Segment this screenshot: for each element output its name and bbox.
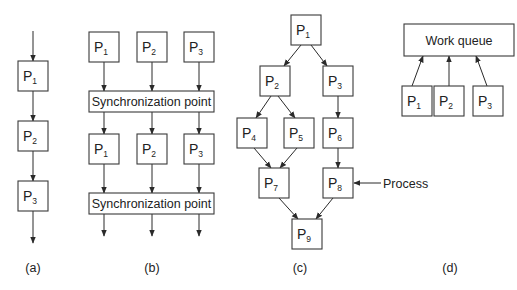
- arrow-edge: [311, 45, 327, 66]
- arrow-edge: [476, 56, 487, 86]
- panel-caption-d: (d): [442, 261, 457, 275]
- arrow-edge: [254, 148, 271, 168]
- boxes-layer: [18, 15, 514, 249]
- arrow-edge: [278, 96, 295, 118]
- process-annotation: Process: [383, 177, 428, 191]
- arrow-edge: [316, 198, 333, 219]
- panel-caption-a: (a): [25, 261, 40, 275]
- parallel-processing-diagram: P1P2P3(a)Synchronization pointSynchroniz…: [0, 0, 517, 290]
- arrow-edge: [280, 148, 297, 168]
- bar-label: Synchronization point: [92, 95, 212, 109]
- arrow-edge: [279, 198, 298, 219]
- panel-caption-b: (b): [144, 261, 159, 275]
- bar-label: Synchronization point: [92, 197, 212, 211]
- arrow-edge: [284, 45, 301, 66]
- arrow-edge: [256, 96, 271, 118]
- panel-caption-c: (c): [293, 261, 308, 275]
- bar-label: Work queue: [425, 34, 492, 48]
- arrow-edge: [412, 56, 423, 86]
